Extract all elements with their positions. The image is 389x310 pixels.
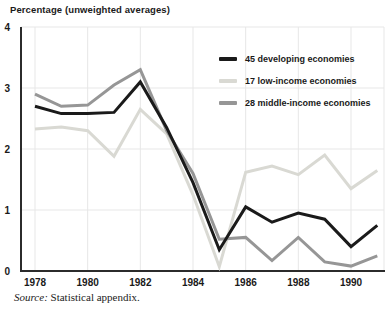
legend-label-middle-income: 28 middle-income economies [245, 98, 371, 108]
x-tick-label: 1990 [340, 277, 363, 288]
legend: 45 developing economies 17 low-income ec… [219, 48, 371, 114]
x-tick-label: 1978 [24, 277, 47, 288]
chart-canvas: Percentage (unweighted averages) 0123419… [0, 0, 389, 310]
legend-label-developing: 45 developing economies [245, 54, 355, 64]
x-tick-label: 1980 [77, 277, 100, 288]
source-text: Statistical appendix. [48, 291, 140, 303]
y-tick-label: 2 [4, 144, 10, 155]
legend-item-developing: 45 developing economies [219, 48, 371, 70]
legend-swatch-developing [219, 57, 237, 61]
x-tick-label: 1988 [287, 277, 310, 288]
legend-swatch-middle-income [219, 101, 237, 105]
series-line-low-income [35, 109, 377, 266]
x-tick-label: 1982 [129, 277, 152, 288]
source-label: Source: [14, 291, 48, 303]
source-note: Source: Statistical appendix. [14, 291, 140, 303]
x-tick-label: 1984 [182, 277, 205, 288]
y-tick-label: 4 [4, 22, 10, 33]
legend-item-middle-income: 28 middle-income economies [219, 92, 371, 114]
y-tick-label: 1 [4, 205, 10, 216]
plot-area: 012341978198019821984198619881990 [0, 0, 389, 310]
y-tick-label: 0 [4, 266, 10, 277]
legend-item-low-income: 17 low-income economies [219, 70, 371, 92]
legend-label-low-income: 17 low-income economies [245, 76, 357, 86]
y-tick-label: 3 [4, 83, 10, 94]
legend-swatch-low-income [219, 79, 237, 83]
x-tick-label: 1986 [235, 277, 258, 288]
